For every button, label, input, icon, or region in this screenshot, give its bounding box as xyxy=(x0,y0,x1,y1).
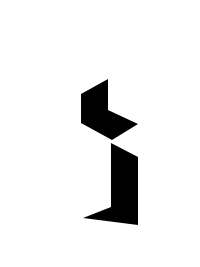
upper-chevron-shape xyxy=(81,79,138,140)
abstract-glyph-figure xyxy=(0,0,200,267)
lower-hook-shape xyxy=(83,143,138,225)
